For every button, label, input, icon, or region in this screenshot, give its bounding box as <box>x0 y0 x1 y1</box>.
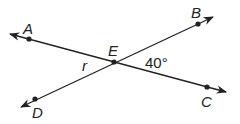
point-d <box>32 96 37 101</box>
label-a: A <box>22 20 33 37</box>
point-b <box>195 21 200 26</box>
point-e <box>111 59 116 64</box>
label-d: D <box>32 104 43 121</box>
line-db <box>21 17 213 107</box>
angle-r-label: r <box>82 57 88 74</box>
label-e: E <box>108 42 119 59</box>
point-c <box>204 84 209 89</box>
point-a <box>26 36 31 41</box>
intersecting-lines-diagram: A B C D E r 40° <box>0 0 240 124</box>
angle-40-label: 40° <box>145 54 168 71</box>
label-c: C <box>201 93 212 110</box>
label-b: B <box>191 4 201 21</box>
